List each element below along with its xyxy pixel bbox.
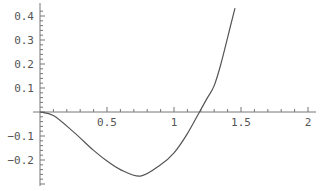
x-axis: [33, 107, 316, 112]
x-tick-label: 0.5: [97, 116, 117, 129]
y-tick-label: 0.2: [14, 58, 34, 71]
y-tick-label: 0.1: [14, 82, 34, 95]
y-tick-label: 0.4: [14, 10, 34, 23]
x-tick-label: 1.5: [231, 116, 251, 129]
y-tick-labels: 0.40.30.20.1−0.1−0.2: [8, 10, 35, 167]
y-tick-label: −0.1: [8, 130, 35, 143]
line-chart: 0.40.30.20.1−0.1−0.2 0.511.52: [0, 0, 322, 191]
y-axis: [40, 3, 45, 186]
x-tick-label: 1: [171, 116, 178, 129]
function-curve: [40, 8, 235, 176]
x-tick-label: 2: [305, 116, 312, 129]
y-tick-label: 0.3: [14, 34, 34, 47]
y-tick-label: −0.2: [8, 154, 35, 167]
x-tick-labels: 0.511.52: [97, 116, 311, 129]
